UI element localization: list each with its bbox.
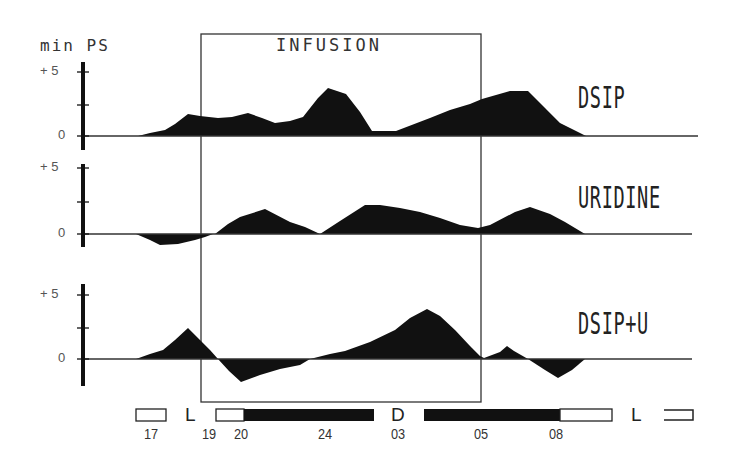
infusion-label: INFUSION — [276, 35, 382, 55]
dsip-ytick-top: + 5 — [40, 63, 58, 78]
dsip-u-ytick-zero: 0 — [58, 350, 65, 365]
dsip-u-area-negative-1 — [218, 359, 310, 382]
series-label-uridine: URIDINE — [578, 180, 661, 215]
light-label-left: L — [185, 404, 196, 426]
y-unit-label: min PS — [40, 36, 110, 55]
chart-figure: min PS INFUSION + 5 0 + 5 0 + 5 0 DSIP U… — [0, 0, 732, 464]
hour-tick: 08 — [549, 425, 563, 442]
uridine-area-positive — [215, 205, 585, 234]
hour-tick: 20 — [234, 425, 248, 442]
hour-tick: 24 — [318, 425, 332, 442]
dark-label: D — [391, 404, 405, 426]
series-label-dsip-u: DSIP+U — [578, 306, 649, 341]
light-dark-bar — [136, 409, 693, 421]
dark-segment-1 — [244, 409, 374, 421]
dsip-ytick-zero: 0 — [58, 127, 65, 142]
dsip-area — [138, 88, 586, 136]
dsip-u-area-positive-2 — [310, 309, 528, 359]
light-segment-right — [560, 409, 612, 421]
dark-segment-2 — [424, 409, 560, 421]
dsip-u-area-positive-1 — [136, 328, 218, 359]
chart-canvas — [0, 0, 732, 464]
dsip-u-ytick-top: + 5 — [40, 286, 58, 301]
hour-tick: 03 — [391, 425, 405, 442]
uridine-ytick-zero: 0 — [58, 225, 65, 240]
hour-tick: 19 — [202, 425, 216, 442]
uridine-ytick-top: + 5 — [40, 159, 58, 174]
light-segment-end — [664, 410, 693, 420]
light-segment-pre-dark — [216, 409, 244, 421]
series-label-dsip: DSIP — [578, 80, 625, 115]
light-segment-left — [136, 409, 166, 421]
hour-tick: 17 — [144, 425, 158, 442]
dsip-u-area-negative-2 — [528, 359, 585, 378]
hour-tick: 05 — [474, 425, 488, 442]
light-label-right: L — [631, 404, 642, 426]
